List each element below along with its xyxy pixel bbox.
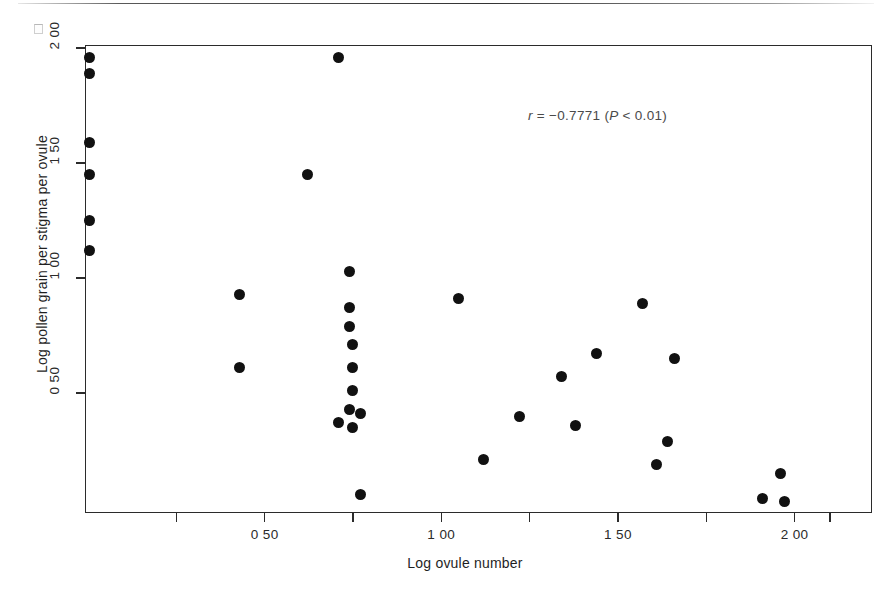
scan-artifact-rule [18,3,874,4]
data-point [514,411,525,422]
x-axis-tick [264,513,265,522]
data-point [344,404,355,415]
data-point [775,468,786,479]
data-point [84,52,95,63]
data-point [302,169,313,180]
x-axis-tick [794,513,795,522]
data-point [333,52,344,63]
x-axis-tick-label: 1 50 [604,527,632,542]
y-axis-tick [76,277,85,278]
x-axis-label-text: Log ovule number [407,555,522,571]
data-point [84,137,95,148]
data-point [669,353,680,364]
y-axis-tick-label: 2 00 [34,28,74,43]
y-axis-tick [76,162,85,163]
data-point [570,420,581,431]
x-axis-tick [176,513,177,522]
x-axis-tick [352,513,353,522]
x-axis-tick [617,513,618,522]
y-axis-label: Log pollen grain per stigma per ovule [34,104,50,404]
x-axis-tick-label: 1 00 [427,527,455,542]
x-axis-tick [706,513,707,522]
data-point [355,408,366,419]
data-point [344,321,355,332]
data-point [637,298,648,309]
plot-area [85,45,872,513]
x-axis-tick [829,513,830,522]
annotation-p-value: < 0.01) [619,108,668,123]
x-axis-tick [529,513,530,522]
figure-scatter-plot: 0 501 001 502 000 501 001 502 00 r = −0.… [0,0,892,596]
x-axis-tick-label: 2 00 [781,527,809,542]
data-point [779,496,790,507]
data-point [344,266,355,277]
y-axis-tick [76,47,85,48]
x-axis-label: Log ovule number [0,555,892,571]
data-point [234,289,245,300]
correlation-annotation: r = −0.7771 (P < 0.01) [528,108,667,123]
data-point [355,489,366,500]
data-point [84,68,95,79]
annotation-p-symbol: P [609,108,618,123]
annotation-value: = −0.7771 ( [533,108,609,123]
x-axis-tick-label: 0 50 [251,527,279,542]
x-axis-tick [441,513,442,522]
y-axis-tick [76,392,85,393]
data-point [662,436,673,447]
